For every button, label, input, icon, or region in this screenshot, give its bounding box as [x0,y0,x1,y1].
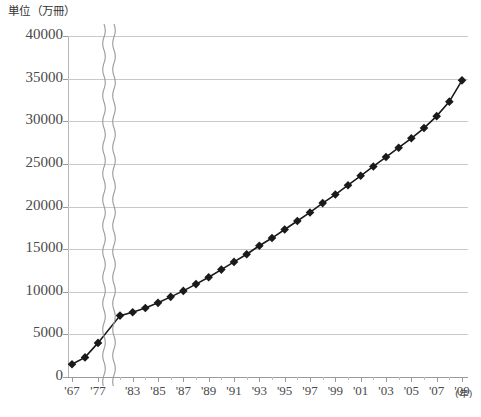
x-tick-label-89: '89 [201,383,216,399]
x-tick-89 [209,377,210,382]
x-tick-minor [373,377,374,380]
y-tick-label-20000: 20000 [0,197,63,214]
x-axis-unit-caption: (年) [455,386,472,400]
gridline-15000 [68,249,468,250]
chart-figure: 単位（万冊） 050001000015000200002500030000350… [0,0,481,417]
x-tick-minor [145,377,146,380]
x-tick-minor [272,377,273,380]
x-tick-99 [335,377,336,382]
y-tick-label-5000: 5000 [0,324,63,341]
x-tick-label-99: '99 [328,383,343,399]
x-tick-label-01: '01 [353,383,368,399]
y-tick-mark-0 [63,377,68,378]
y-tick-label-10000: 10000 [0,282,63,299]
x-tick-label-97: '97 [302,383,317,399]
x-tick-05 [411,377,412,382]
x-tick-97 [310,377,311,382]
x-tick-minor [221,377,222,380]
y-tick-mark-20000 [63,207,68,208]
x-tick-minor [323,377,324,380]
gridline-25000 [68,164,468,165]
x-tick-09 [462,377,463,382]
x-axis-baseline [68,377,468,378]
gridline-40000 [68,36,468,37]
x-tick-03 [386,377,387,382]
x-tick-label-85: '85 [150,383,165,399]
x-tick-label-67: '67 [64,383,79,399]
x-tick-label-77: '77 [90,383,105,399]
x-tick-minor [297,377,298,380]
y-tick-label-35000: 35000 [0,69,63,86]
gridline-30000 [68,121,468,122]
x-tick-minor [196,377,197,380]
y-tick-mark-15000 [63,249,68,250]
y-tick-mark-30000 [63,121,68,122]
x-tick-93 [259,377,260,382]
y-tick-mark-40000 [63,36,68,37]
y-tick-label-15000: 15000 [0,239,63,256]
x-tick-77 [98,377,99,382]
y-tick-label-0: 0 [0,367,63,384]
y-tick-mark-25000 [63,164,68,165]
x-tick-91 [234,377,235,382]
x-tick-minor [171,377,172,380]
x-tick-label-83: '83 [125,383,140,399]
x-tick-67 [72,377,73,382]
x-tick-minor [449,377,450,380]
y-tick-label-25000: 25000 [0,154,63,171]
x-tick-minor [247,377,248,380]
y-tick-label-30000: 30000 [0,111,63,128]
y-tick-mark-35000 [63,79,68,80]
y-axis-unit-caption: 単位（万冊） [8,2,76,18]
x-tick-07 [437,377,438,382]
gridline-5000 [68,334,468,335]
y-tick-mark-10000 [63,292,68,293]
plot-area [68,36,468,377]
x-tick-minor [120,377,121,380]
x-tick-label-93: '93 [252,383,267,399]
x-tick-label-87: '87 [176,383,191,399]
x-tick-01 [361,377,362,382]
x-tick-minor [424,377,425,380]
x-tick-85 [158,377,159,382]
gridline-20000 [68,207,468,208]
x-tick-label-05: '05 [404,383,419,399]
x-tick-minor [348,377,349,380]
x-tick-95 [285,377,286,382]
x-tick-label-07: '07 [429,383,444,399]
x-tick-label-91: '91 [226,383,241,399]
gridline-10000 [68,292,468,293]
x-tick-label-03: '03 [378,383,393,399]
x-tick-label-95: '95 [277,383,292,399]
y-tick-mark-5000 [63,334,68,335]
gridline-35000 [68,79,468,80]
y-tick-label-40000: 40000 [0,26,63,43]
x-tick-87 [183,377,184,382]
x-tick-83 [133,377,134,382]
x-tick-minor [399,377,400,380]
